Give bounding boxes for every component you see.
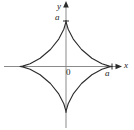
y-axis-tick-label: a xyxy=(55,13,60,22)
astroid-figure: y x a a 0 xyxy=(0,0,134,130)
x-axis-arrowhead xyxy=(116,64,123,70)
plot-canvas xyxy=(0,0,134,130)
x-axis-label: x xyxy=(124,61,128,70)
y-axis-arrowhead xyxy=(63,1,69,8)
x-axis-tick-label: a xyxy=(105,69,110,78)
y-axis-label: y xyxy=(57,2,61,11)
origin-label: 0 xyxy=(66,68,71,77)
